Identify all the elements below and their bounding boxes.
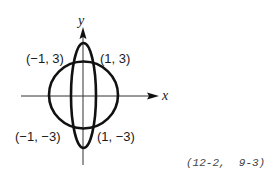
x-axis-label: x — [161, 88, 169, 103]
diagram-canvas: y x (−1, 3) (1, 3) (−1, −3) (1, −3) (12-… — [0, 0, 272, 183]
point-label-1-neg3: (1, −3) — [97, 129, 135, 144]
point-label-neg1-neg3: (−1, −3) — [15, 129, 61, 144]
y-axis-label: y — [76, 13, 85, 28]
point-label-1-3: (1, 3) — [100, 51, 130, 66]
point-label-neg1-3: (−1, 3) — [26, 51, 64, 66]
section-reference: (12-2, 9-3) — [186, 157, 265, 169]
